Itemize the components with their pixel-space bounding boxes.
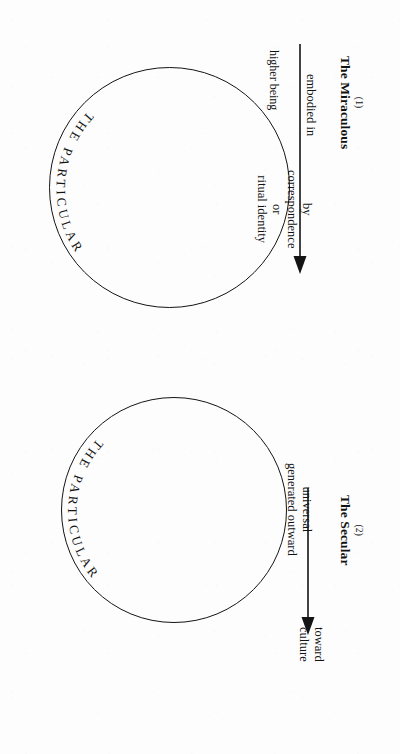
higher-being-label: higher being: [266, 50, 280, 110]
toward-line-2: culture: [296, 627, 311, 662]
universal-line-2: generated outward: [284, 463, 299, 556]
curved-caption-text-miraculous: THE PARTICULAR: [53, 110, 97, 257]
figure-stage: (1) The Miraculous THE PARTICULAR higher…: [0, 0, 400, 754]
panel-title-miraculous: (1) The Miraculous: [338, 56, 364, 149]
universal-line-1: universal: [299, 463, 314, 556]
panel-number-secular: (2): [353, 495, 364, 565]
panel-miraculous: (1) The Miraculous THE PARTICULAR higher…: [0, 42, 400, 419]
figure-page: (1) The Miraculous THE PARTICULAR higher…: [0, 0, 400, 754]
correspondence-label: by correspondence or ritual identity: [254, 170, 314, 248]
curved-caption-text-secular: THE PARTICULAR: [65, 437, 106, 583]
toward-line-1: toward: [311, 627, 326, 662]
correspondence-line-4: ritual identity: [254, 170, 269, 248]
correspondence-line-3: or: [269, 170, 284, 248]
toward-culture-label: toward culture: [296, 627, 326, 662]
panel-secular: (2) The Secular THE PARTICULAR universal: [0, 375, 400, 752]
embodied-in-label: embodied in: [304, 74, 318, 136]
correspondence-line-2: correspondence: [284, 170, 299, 248]
panel-number-miraculous: (1): [353, 56, 364, 149]
panel-name-secular: The Secular: [338, 495, 353, 565]
correspondence-line-1: by: [299, 170, 314, 248]
universal-generated-label: universal generated outward: [284, 463, 314, 556]
panel-title-secular: (2) The Secular: [338, 495, 364, 565]
panel-name-miraculous: The Miraculous: [338, 56, 353, 149]
curved-caption-secular: THE PARTICULAR: [61, 397, 287, 623]
